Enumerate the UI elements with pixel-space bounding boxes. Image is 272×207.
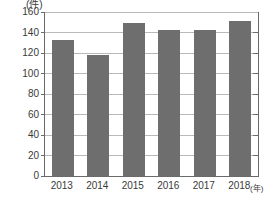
x-axis-unit-label: (年) xyxy=(250,184,263,194)
y-axis-tick-label: 60 xyxy=(28,110,39,120)
bar xyxy=(194,30,216,176)
x-axis-tick-label: 2016 xyxy=(157,180,179,192)
bar xyxy=(123,23,145,176)
x-axis-tick-label: 2015 xyxy=(122,180,144,192)
y-axis-tick-label: 140 xyxy=(22,28,39,38)
y-axis-tick-label: 120 xyxy=(22,48,39,58)
x-axis-tick-label: 2017 xyxy=(193,180,215,192)
y-axis-tick-label: 80 xyxy=(28,89,39,99)
y-axis-tick-label: 0 xyxy=(33,171,39,181)
bar xyxy=(158,30,180,176)
x-axis-tick-label: 2018 xyxy=(228,180,250,192)
bars-layer xyxy=(45,12,258,176)
plot-area: 020406080100120140160 xyxy=(44,12,259,177)
x-axis-tick-label: 2013 xyxy=(51,180,73,192)
x-axis-tick-label: 2014 xyxy=(86,180,108,192)
y-axis-tick-label: 160 xyxy=(22,7,39,17)
y-axis-tick-label: 40 xyxy=(28,130,39,140)
y-axis-tick-label: 20 xyxy=(28,151,39,161)
bar-chart: (件) 020406080100120140160 20132014201520… xyxy=(0,0,272,207)
x-axis-labels: 201320142015201620172018 xyxy=(44,180,259,196)
bar xyxy=(229,21,251,176)
bar xyxy=(52,40,74,176)
bar xyxy=(87,55,109,176)
y-axis-tick-label: 100 xyxy=(22,69,39,79)
